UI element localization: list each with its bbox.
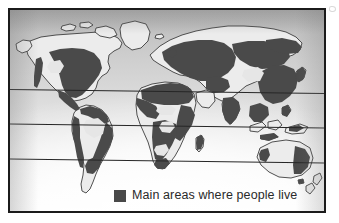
land-greenland — [120, 21, 150, 50]
land-arctic-islands — [61, 24, 76, 31]
populated-europe — [162, 40, 236, 81]
land-arctic-island-small — [80, 22, 93, 28]
populated-india — [222, 97, 240, 125]
land-borneo — [268, 120, 282, 130]
populated-area-swatch — [114, 190, 126, 202]
populated-southeast-asia — [249, 103, 269, 122]
populated-java — [260, 133, 279, 141]
map-legend: Main areas where people live — [114, 189, 297, 202]
populated-philippines — [282, 105, 291, 117]
figure-root: Main areas where people live — [0, 0, 339, 223]
scan-artifact-speck — [329, 6, 336, 12]
land-arabia — [196, 90, 215, 108]
map-frame: Main areas where people live — [8, 8, 326, 213]
legend-label: Main areas where people live — [132, 189, 297, 202]
land-iceland — [155, 34, 164, 39]
world-map — [10, 10, 324, 211]
land-new-zealand-south — [306, 183, 315, 194]
populated-china — [258, 65, 298, 104]
land-new-zealand — [313, 173, 322, 185]
